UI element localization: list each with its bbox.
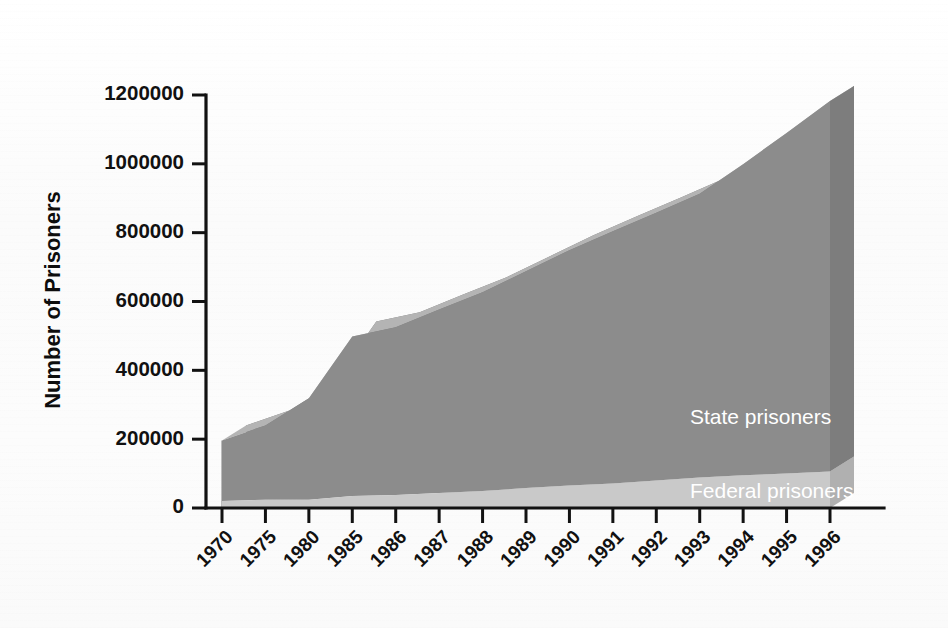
y-axis-title: Number of Prisoners	[40, 191, 65, 409]
series-label-state: State prisoners	[690, 405, 831, 428]
y-tick-label: 800000	[116, 219, 184, 242]
y-tick-label: 600000	[116, 288, 184, 311]
y-tick-label: 200000	[116, 426, 184, 449]
prisoners-area-chart: 020000040000060000080000010000001200000 …	[0, 0, 948, 628]
x-tick-label: 1985	[322, 526, 367, 571]
y-axis-tick-labels: 020000040000060000080000010000001200000	[104, 81, 184, 517]
area-left-edge	[222, 441, 223, 509]
y-tick-label: 0	[173, 494, 184, 517]
x-tick-label: 1980	[279, 526, 324, 571]
x-tick-label: 1986	[366, 526, 411, 571]
x-tick-label: 1993	[670, 526, 715, 571]
x-tick-label: 1975	[236, 526, 281, 571]
x-tick-label: 1994	[713, 526, 758, 571]
y-axis-ticks	[192, 95, 206, 508]
series-label-federal: Federal prisoners	[690, 479, 853, 502]
x-tick-label: 1989	[496, 526, 541, 571]
x-tick-label: 1988	[453, 526, 498, 571]
x-tick-label: 1995	[757, 526, 802, 571]
chart-page: 020000040000060000080000010000001200000 …	[0, 0, 948, 628]
series-layer	[222, 86, 855, 508]
x-tick-label: 1987	[409, 526, 454, 571]
x-tick-label: 1990	[540, 526, 585, 571]
state-area-right-face	[830, 86, 854, 472]
x-axis-ticks	[222, 508, 830, 523]
x-tick-label: 1996	[800, 526, 845, 571]
x-tick-label: 1991	[583, 526, 628, 571]
x-tick-label: 1992	[626, 526, 671, 571]
x-axis-tick-labels: 1970197519801985198619871988198919901991…	[192, 526, 845, 571]
y-tick-label: 1000000	[104, 150, 184, 173]
state-area-front-face	[222, 101, 830, 501]
x-tick-label: 1970	[192, 526, 237, 571]
y-tick-label: 400000	[116, 357, 184, 380]
y-tick-label: 1200000	[104, 81, 184, 104]
